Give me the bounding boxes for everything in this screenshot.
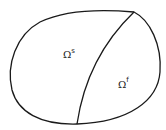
interface-curve bbox=[77, 12, 134, 124]
omega-s-label: Ωs bbox=[63, 47, 75, 60]
domain-diagram: Ωs Ωf bbox=[0, 0, 166, 130]
omega-f-label: Ωf bbox=[118, 76, 129, 90]
domain-boundary bbox=[10, 11, 160, 124]
